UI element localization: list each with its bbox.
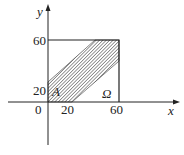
coordinate-diagram: y x 0 20 60 20 60 A Ω — [0, 0, 184, 155]
x-tick-20: 20 — [61, 102, 74, 117]
origin-label: 0 — [35, 102, 42, 117]
x-tick-60: 60 — [110, 102, 123, 117]
y-tick-20: 20 — [33, 83, 46, 98]
y-axis-arrow-icon — [46, 4, 51, 11]
x-axis-label: x — [167, 103, 174, 118]
y-tick-60: 60 — [33, 33, 46, 48]
x-axis-arrow-icon — [173, 100, 180, 105]
region-omega-label: Ω — [102, 86, 111, 101]
y-axis-label: y — [35, 4, 43, 19]
region-a-label: A — [51, 84, 60, 99]
